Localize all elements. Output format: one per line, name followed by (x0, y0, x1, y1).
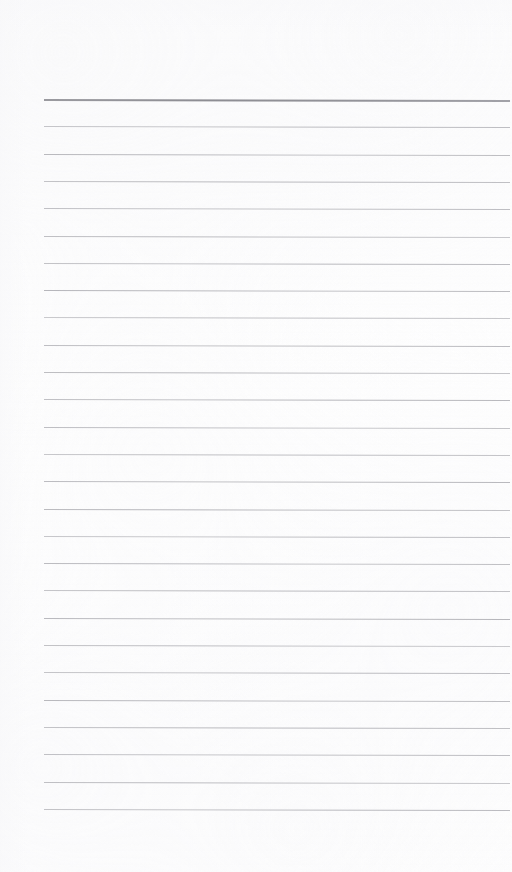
notebook-page (0, 0, 512, 872)
page-content-text[interactable] (44, 99, 510, 811)
